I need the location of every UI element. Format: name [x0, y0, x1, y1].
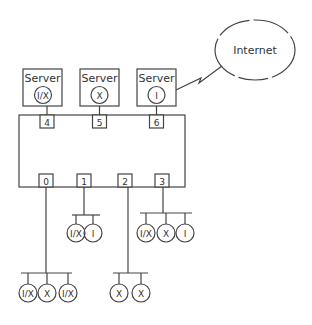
port-label: 6 — [154, 118, 160, 128]
server-1: Server I/X — [23, 69, 62, 106]
internet-label: Internet — [233, 44, 277, 57]
server-label: Server — [81, 72, 118, 85]
network-diagram: Internet Server I/X Server X Server I 4 … — [0, 0, 312, 325]
server-label: Server — [24, 72, 61, 85]
port-label: 1 — [81, 177, 87, 187]
port0-group: I/X X I/X — [19, 187, 77, 302]
node-label: I/X — [70, 229, 82, 239]
port2-group: X X — [110, 187, 150, 302]
server-label: Server — [138, 72, 175, 85]
server-node-label: I/X — [37, 91, 49, 101]
port-label: 5 — [97, 118, 103, 128]
port-label: 3 — [159, 177, 165, 187]
server-node-label: I — [155, 91, 158, 101]
port-label: 4 — [44, 118, 50, 128]
switch: 4 5 6 0 1 2 3 — [19, 115, 185, 187]
node-label: I/X — [22, 289, 34, 299]
node-label: I/X — [140, 229, 152, 239]
port3-group: I/X X I — [137, 187, 194, 242]
port-label: 2 — [122, 177, 128, 187]
port-label: 0 — [43, 177, 49, 187]
wan-link — [176, 66, 222, 90]
node-label: I/X — [62, 289, 74, 299]
node-label: I — [184, 229, 187, 239]
node-label: X — [138, 289, 144, 299]
port1-group: I/X I — [67, 187, 102, 242]
server-node-label: X — [96, 91, 102, 101]
node-label: X — [44, 289, 50, 299]
internet-cloud: Internet — [215, 20, 295, 80]
node-label: X — [163, 229, 169, 239]
server-2: Server X — [80, 69, 119, 106]
node-label: X — [116, 289, 122, 299]
server-3: Server I — [137, 69, 176, 106]
node-label: I — [92, 229, 95, 239]
